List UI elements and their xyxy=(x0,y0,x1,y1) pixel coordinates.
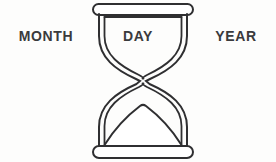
hourglass-right-inner-wall-top xyxy=(143,17,182,79)
label-day: DAY xyxy=(112,29,164,43)
hourglass-icon xyxy=(0,0,276,162)
sand-mound xyxy=(105,105,182,145)
hourglass-left-inner-wall-top xyxy=(105,17,144,79)
bottom-cap xyxy=(93,146,193,158)
label-year: YEAR xyxy=(204,29,268,43)
label-month: MONTH xyxy=(8,29,84,43)
illustration-canvas: MONTH DAY YEAR xyxy=(0,0,276,162)
top-cap xyxy=(93,4,193,15)
